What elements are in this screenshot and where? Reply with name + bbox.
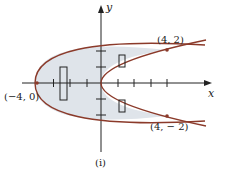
point-label-neg4-0: (−4, 0) xyxy=(4,92,39,102)
parabola-region-diagram xyxy=(0,0,225,173)
x-axis-arrow-icon xyxy=(204,80,212,86)
point-4-neg2 xyxy=(165,114,169,118)
figure-caption: (i) xyxy=(95,158,106,168)
y-axis-label: y xyxy=(106,2,112,13)
x-axis-label: x xyxy=(208,88,214,99)
y-axis-arrow-icon xyxy=(98,5,104,13)
point-neg4-0 xyxy=(35,81,39,85)
point-label-4-2: (4, 2) xyxy=(157,35,184,45)
point-4-2 xyxy=(165,48,169,52)
point-label-4-neg2: (4, − 2) xyxy=(150,122,188,132)
